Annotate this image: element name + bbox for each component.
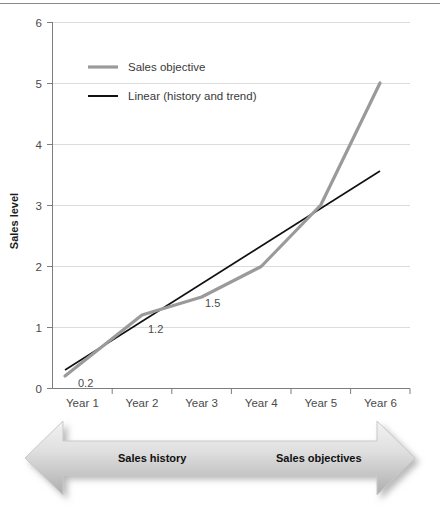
- x-category-label: Year 6: [364, 397, 397, 409]
- y-tick-marks: [47, 23, 52, 389]
- data-label-year1: 0.2: [78, 377, 93, 389]
- data-label-year3: 1.5: [205, 297, 220, 309]
- timeline-arrow-banner: Sales history Sales objectives: [0, 416, 440, 507]
- y-tick-label: 3: [36, 200, 42, 212]
- chart-legend: Sales objective Linear (history and tren…: [88, 61, 257, 102]
- y-axis-title: Sales level: [8, 193, 20, 249]
- line-chart: 6 5 4 3 2 1 0 Sales level Year 1 Year 2 …: [0, 8, 440, 413]
- legend-label-sales-objective: Sales objective: [128, 61, 205, 73]
- chart-svg: 6 5 4 3 2 1 0 Sales level Year 1 Year 2 …: [0, 8, 440, 413]
- y-tick-labels: 6 5 4 3 2 1 0: [36, 17, 43, 395]
- x-tick-marks: [112, 389, 410, 395]
- y-tick-label: 1: [36, 322, 42, 334]
- y-tick-label: 6: [36, 17, 42, 29]
- double-arrow-svg: Sales history Sales objectives: [0, 416, 440, 507]
- legend-item-linear-history-and-trend: Linear (history and trend): [88, 90, 257, 102]
- legend-item-sales-objective: Sales objective: [88, 61, 205, 73]
- legend-label-linear-history-and-trend: Linear (history and trend): [128, 90, 257, 102]
- y-tick-label: 5: [36, 78, 42, 90]
- arrow-label-sales-history: Sales history: [118, 452, 187, 464]
- y-tick-label: 2: [36, 261, 42, 273]
- x-category-label: Year 5: [304, 397, 337, 409]
- x-category-label: Year 2: [126, 397, 159, 409]
- data-point-annotations: 0.2 1.2 1.5: [78, 297, 220, 389]
- series-line-sales-objective: [65, 83, 380, 376]
- data-label-year2: 1.2: [148, 323, 163, 335]
- y-tick-label: 0: [36, 383, 42, 395]
- y-tick-label: 4: [36, 139, 43, 151]
- figure-sales-objectives: 6 5 4 3 2 1 0 Sales level Year 1 Year 2 …: [0, 0, 440, 507]
- x-category-label: Year 1: [66, 397, 99, 409]
- x-category-label: Year 3: [185, 397, 218, 409]
- x-category-label: Year 4: [245, 397, 278, 409]
- x-category-labels: Year 1 Year 2 Year 3 Year 4 Year 5 Year …: [66, 397, 397, 409]
- arrow-label-sales-objectives: Sales objectives: [276, 452, 362, 464]
